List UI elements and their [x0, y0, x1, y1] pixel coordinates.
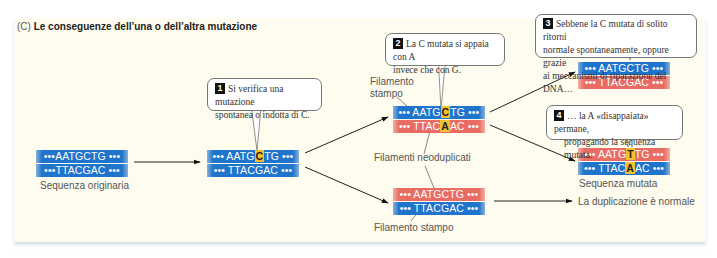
- label-line: Filamento: [370, 76, 414, 88]
- callout-4: 4… la A «disappaiata» permane, propagand…: [546, 105, 683, 140]
- callout-text: La C mutata si appaia con A: [393, 39, 489, 62]
- dna-normal-copy: ••• AATGCTG ••• ••• TTACGAC •••: [393, 188, 485, 215]
- step-number-4: 4: [554, 110, 564, 121]
- strand-bottom: ••• TTACGAC •••: [207, 164, 299, 177]
- arrow-to-mispaired: [305, 117, 388, 153]
- label-normal-result: La duplicazione è normale: [578, 196, 695, 207]
- seq-part: ••• AATG: [213, 150, 255, 162]
- mutated-base: A: [625, 162, 635, 174]
- callout-line: 4… la A «disappaiata» permane,: [554, 110, 675, 136]
- callout-line: 3Sebbene la C mutata di solito ritorni: [543, 18, 689, 44]
- seq-part: AC •••: [635, 162, 664, 174]
- strand-new: ••• TTACAAC •••: [393, 120, 485, 133]
- mutated-base: C: [441, 106, 451, 118]
- label-line: stampo: [370, 88, 414, 100]
- dna-original: •••AATGCTG ••• •••TTACGAC •••: [36, 150, 128, 177]
- callout-text: Si verifica una mutazione: [215, 84, 283, 107]
- callout-text: propagando la sequenza mutata.: [554, 136, 675, 162]
- strand-bottom: •••TTACGAC •••: [36, 164, 128, 177]
- seq-part: TG •••: [450, 106, 479, 118]
- mispaired-base: A: [440, 120, 450, 132]
- callout-line: 2La C mutata si appaia con A: [393, 38, 497, 64]
- strand-new: ••• AATGCTG •••: [393, 188, 485, 201]
- callout-text: spontanea o indotta di C.: [215, 109, 314, 122]
- callout-1: 1Si verifica una mutazione spontanea o i…: [207, 78, 322, 111]
- label-template-strand-top: Filamento stampo: [370, 76, 414, 100]
- dna-mutated-c: ••• AATGCTG ••• ••• TTACGAC •••: [207, 150, 299, 177]
- seq-part: ••• TTAC: [399, 120, 440, 132]
- strand-template: ••• AATGCTG •••: [393, 106, 485, 119]
- mutated-base: C: [255, 150, 265, 162]
- caption-original: Sequenza originaria: [40, 180, 129, 191]
- callout-text: … la A «disappaiata» permane,: [554, 111, 649, 134]
- callout-text: normale spontaneamente, oppure grazie: [543, 44, 689, 70]
- seq-part: TG •••: [264, 150, 293, 162]
- step-number-3: 3: [543, 18, 553, 29]
- label-new-strands: Filamenti neoduplicati: [374, 152, 471, 163]
- callout-text: ai meccanismi di riparazione del DNA…: [543, 70, 689, 96]
- arrow-to-normal-copy: [305, 167, 388, 203]
- callout-line: 1Si verifica una mutazione: [215, 83, 314, 109]
- strand-bottom: ••• TTACAAC •••: [578, 162, 670, 175]
- callout-2: 2La C mutata si appaia con A invece che …: [385, 33, 505, 66]
- step-number-1: 1: [215, 83, 225, 94]
- strand-top: •••AATGCTG •••: [36, 150, 128, 163]
- seq-part: ••• AATG: [399, 106, 441, 118]
- seq-part: AC •••: [450, 120, 479, 132]
- callout-text: Sebbene la C mutata di solito ritorni: [543, 19, 668, 42]
- leader-new-strand-1: [424, 131, 430, 154]
- callout-text: invece che con G.: [393, 64, 497, 77]
- strand-top: ••• AATGCTG •••: [207, 150, 299, 163]
- seq-part: ••• TTAC: [584, 162, 625, 174]
- callout-3: 3Sebbene la C mutata di solito ritorni n…: [535, 14, 697, 58]
- strand-template: ••• TTACGAC •••: [393, 202, 485, 215]
- leader-new-strand-2: [425, 166, 434, 188]
- step-number-2: 2: [393, 38, 403, 49]
- dna-mispaired: ••• AATGCTG ••• ••• TTACAAC •••: [393, 106, 485, 133]
- label-template-strand-bottom: Filamento stampo: [374, 222, 453, 233]
- caption-mutated: Sequenza mutata: [579, 178, 657, 189]
